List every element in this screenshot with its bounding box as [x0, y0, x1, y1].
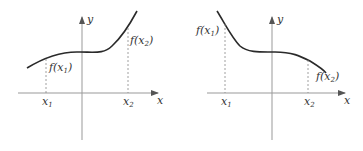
- x-axis-label: x: [157, 94, 164, 107]
- label-f-x1: f(x1): [195, 24, 219, 38]
- panel-increasing: x y x1 x2 f(x1) f(x2): [18, 11, 164, 140]
- label-f-x1: f(x1): [48, 61, 72, 75]
- y-axis-label: y: [276, 13, 284, 26]
- label-f-x2: f(x2): [129, 34, 153, 48]
- tick-x2: x2: [304, 95, 315, 109]
- tick-x1: x1: [221, 95, 232, 109]
- tick-x1: x1: [42, 95, 53, 109]
- tick-x2: x2: [123, 95, 134, 109]
- label-f-x2: f(x2): [315, 70, 339, 84]
- panel-decreasing: x y x1 x2 f(x1) f(x2): [195, 11, 351, 140]
- diagram-canvas: x y x1 x2 f(x1) f(x2) x y x1 x2 f(x1) f(…: [0, 0, 363, 151]
- x-axis-label: x: [344, 94, 351, 107]
- y-axis-label: y: [86, 13, 94, 26]
